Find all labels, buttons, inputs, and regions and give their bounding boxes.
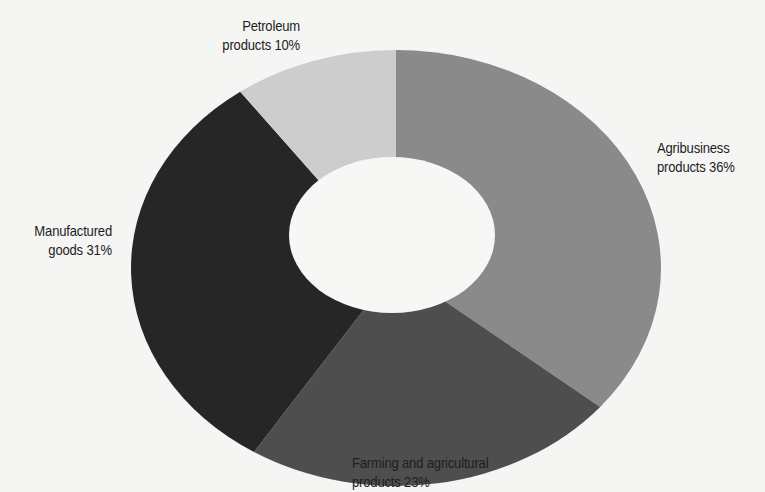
chart-container: Petroleum products 10% Agribusiness prod… [0,0,765,492]
label-line: Farming and agricultural [352,454,550,473]
label-line: Agribusiness [657,139,756,158]
label-line: Manufactured [13,222,112,241]
donut-hole [289,157,495,313]
label-line: products 10% [210,36,300,55]
label-manufactured-goods: Manufactured goods 31% [13,222,112,260]
donut-chart [0,0,765,492]
label-line: products 23% [352,473,550,492]
label-line: Petroleum [210,17,300,36]
label-agribusiness-products: Agribusiness products 36% [657,139,756,177]
label-line: products 36% [657,158,756,177]
label-farming-agricultural-products: Farming and agricultural products 23% [352,454,550,492]
label-petroleum-products: Petroleum products 10% [210,17,300,55]
label-line: goods 31% [13,241,112,260]
